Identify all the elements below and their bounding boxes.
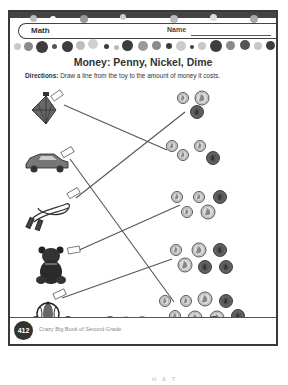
worksheet-footer: 412 Crazy Big Book of Second Grade [10, 317, 276, 344]
line-top-to-group2 [64, 105, 167, 150]
dime-coin [181, 296, 192, 307]
line-bear-to-group3 [77, 205, 180, 251]
line-rope-to-group1 [76, 112, 185, 198]
coin-group-2 [167, 141, 220, 165]
penny-coin [220, 261, 233, 274]
dime-coin [195, 141, 206, 152]
line-ball-to-group4 [62, 259, 172, 298]
below-page-text: H & T [152, 376, 177, 382]
penny-coin [214, 191, 227, 204]
penny-coin [207, 152, 220, 165]
dime-coin [182, 207, 193, 218]
nickel-coin [201, 205, 215, 219]
book-title: Crazy Big Book of Second Grade [39, 326, 121, 332]
spinning-top-icon [32, 90, 63, 124]
dime-coin [167, 141, 178, 152]
nickel-coin [178, 258, 192, 272]
dime-coin [171, 245, 182, 256]
teddy-bear-icon [36, 246, 80, 284]
penny-coin [199, 261, 212, 274]
nickel-coin [198, 292, 212, 306]
answer-lines [62, 105, 185, 302]
penny-coin [191, 106, 204, 119]
jump-rope-icon [26, 188, 80, 231]
nickel-coin [192, 243, 206, 257]
toy-car-icon [26, 147, 74, 173]
nickel-coin [195, 91, 209, 105]
dime-coin [160, 296, 171, 307]
worksheet-page: Math Name Money: Penny, Nickel, Dime Dir… [8, 10, 278, 346]
penny-coin [214, 244, 227, 257]
dime-coin [178, 150, 189, 161]
page-number-badge: 412 [14, 321, 33, 340]
dime-coin [194, 192, 205, 203]
penny-coin [220, 295, 233, 308]
matching-artwork [10, 12, 278, 346]
dime-coin [172, 192, 183, 203]
coin-group-4 [171, 243, 233, 274]
dime-coin [178, 93, 189, 104]
